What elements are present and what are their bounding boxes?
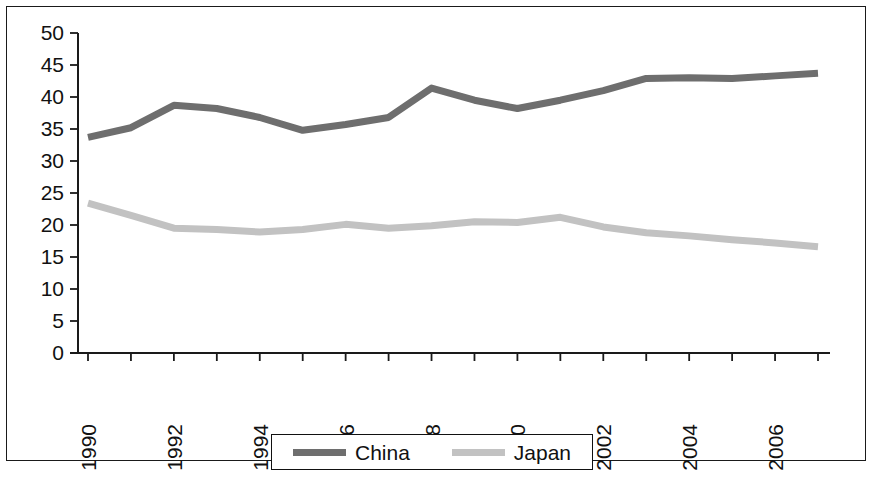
- y-tick-label: 50: [41, 21, 64, 44]
- y-tick-label: 25: [41, 181, 64, 204]
- x-tick-label: 1990: [77, 424, 100, 471]
- y-tick-label: 20: [41, 213, 64, 236]
- data-series-group: [88, 73, 818, 246]
- y-axis-tick-marks: [70, 33, 78, 353]
- x-tick-label: 2006: [764, 424, 787, 471]
- y-axis-tick-labels: 05101520253035404550: [41, 21, 64, 364]
- y-tick-label: 0: [52, 341, 64, 364]
- y-tick-label: 35: [41, 117, 64, 140]
- legend-swatch-china: [293, 449, 346, 456]
- series-line-china: [88, 73, 818, 137]
- legend-label-japan: Japan: [514, 442, 571, 463]
- y-tick-label: 45: [41, 53, 64, 76]
- x-tick-label: 1994: [249, 424, 272, 471]
- legend-entry-japan: Japan: [452, 442, 571, 463]
- y-tick-label: 40: [41, 85, 64, 108]
- y-tick-label: 30: [41, 149, 64, 172]
- chart-legend: China Japan: [271, 434, 593, 470]
- y-tick-label: 5: [52, 309, 64, 332]
- x-tick-label: 2002: [592, 424, 615, 471]
- chart-figure: 05101520253035404550 1990199219941996199…: [0, 0, 877, 486]
- x-axis-tick-marks: [88, 353, 818, 361]
- x-tick-label: 2004: [678, 424, 701, 471]
- legend-label-china: China: [355, 442, 410, 463]
- y-tick-label: 10: [41, 277, 64, 300]
- line-chart-plot: 05101520253035404550 1990199219941996199…: [0, 0, 877, 486]
- series-line-japan: [88, 203, 818, 247]
- legend-entry-china: China: [293, 442, 410, 463]
- legend-swatch-japan: [452, 449, 505, 456]
- y-tick-label: 15: [41, 245, 64, 268]
- x-tick-label: 1992: [163, 424, 186, 471]
